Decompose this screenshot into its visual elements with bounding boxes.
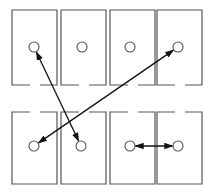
circle-node [76,141,86,151]
circle-node [29,141,39,151]
circle-node [125,42,135,52]
circle-node [29,42,39,52]
cell-arrow-diagram [0,0,212,193]
cells-layer [12,10,202,184]
circle-node [173,141,183,151]
circle-node [77,42,87,52]
circle-node [125,141,135,151]
circle-node [173,42,183,52]
